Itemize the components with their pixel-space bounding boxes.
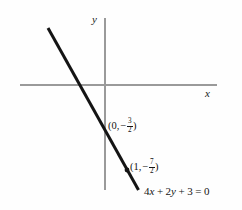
fraction-denominator: 2 (127, 126, 133, 135)
equation-plus-1: + (157, 185, 163, 197)
point-marker-second (125, 168, 130, 173)
fraction-denominator: 2 (149, 167, 155, 176)
point-comma: , (117, 121, 120, 132)
point-comma: , (139, 162, 142, 173)
equation-constant: 3 (187, 185, 193, 197)
plot-canvas (0, 0, 242, 210)
x-axis-label: x (205, 88, 210, 99)
point-minus-sign: − (142, 162, 148, 173)
equation-var-y: y (171, 185, 176, 197)
fraction-seven-halves: 7 2 (149, 159, 155, 175)
equation-equals: = (195, 185, 201, 197)
equation-rhs: 0 (204, 185, 210, 197)
plotted-line (48, 28, 139, 190)
y-axis-label: y (92, 14, 97, 25)
second-point-label: ( 1 , − 7 2 ) (130, 159, 158, 175)
equation-plus-2: + (179, 185, 185, 197)
equation-label: 4x+2y+3=0 (144, 186, 209, 197)
equation-var-x: x (150, 185, 155, 197)
paren-close: ) (133, 121, 137, 132)
y-intercept-label: ( 0 , − 3 2 ) (108, 118, 136, 134)
line-graph-figure: y x ( 0 , − 3 2 ) ( 1 , − 7 2 ) 4x+2y+3=… (0, 0, 242, 210)
fraction-numerator: 3 (127, 118, 133, 126)
fraction-numerator: 7 (149, 159, 155, 167)
point-minus-sign: − (120, 121, 126, 132)
fraction-three-halves: 3 2 (127, 118, 133, 134)
paren-close: ) (155, 162, 159, 173)
